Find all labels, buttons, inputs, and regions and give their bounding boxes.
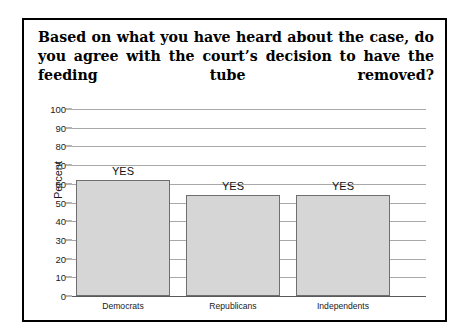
chart-question-title: Based on what you have heard about the c… xyxy=(38,28,434,104)
y-axis-tick-mark xyxy=(65,183,72,184)
y-axis-tick-label: 30 xyxy=(32,234,66,245)
y-axis-tick-label: 20 xyxy=(32,253,66,264)
y-axis-tick-mark xyxy=(65,277,72,278)
chart-figure: Based on what you have heard about the c… xyxy=(22,18,447,322)
bar-value-label: YES xyxy=(296,180,390,192)
bar-democrats xyxy=(76,180,170,296)
y-axis-tick-label: 70 xyxy=(32,160,66,171)
x-axis-category-label: Independents xyxy=(296,301,390,311)
y-axis-tick-label: 100 xyxy=(32,104,66,115)
y-axis-tick-mark xyxy=(65,296,72,297)
gridline xyxy=(72,109,426,110)
y-axis-tick-mark xyxy=(65,109,72,110)
y-axis-tick-mark xyxy=(65,127,72,128)
bar-republicans xyxy=(186,195,280,296)
y-axis-tick-marks xyxy=(65,109,72,296)
y-axis-tick-mark xyxy=(65,202,72,203)
plot-area: YESDemocratsYESRepublicansYESIndependent… xyxy=(72,109,426,296)
bar-value-label: YES xyxy=(76,165,170,177)
x-axis-category-label: Republicans xyxy=(186,301,280,311)
gridline xyxy=(72,296,426,297)
y-axis-tick-label: 60 xyxy=(32,178,66,189)
gridline xyxy=(72,146,426,147)
y-axis-tick-label: 40 xyxy=(32,216,66,227)
y-axis-tick-mark xyxy=(65,146,72,147)
bar-value-label: YES xyxy=(186,180,280,192)
y-axis-tick-mark xyxy=(65,258,72,259)
y-axis-tick-mark xyxy=(65,165,72,166)
y-axis-tick-label: 50 xyxy=(32,197,66,208)
gridline xyxy=(72,128,426,129)
y-axis-tick-label: 80 xyxy=(32,141,66,152)
y-axis-tick-label: 90 xyxy=(32,122,66,133)
bar-independents xyxy=(296,195,390,296)
y-axis-tick-label: 0 xyxy=(32,291,66,302)
y-axis-tick-labels: 1009080706050403020100 xyxy=(28,109,66,296)
y-axis-tick-mark xyxy=(65,221,72,222)
y-axis-tick-label: 10 xyxy=(32,272,66,283)
y-axis-tick-mark xyxy=(65,239,72,240)
x-axis-category-label: Democrats xyxy=(76,301,170,311)
